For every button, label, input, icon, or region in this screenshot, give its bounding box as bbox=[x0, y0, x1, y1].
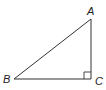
triangle-diagram: A B C bbox=[0, 0, 106, 90]
vertex-label-b: B bbox=[3, 73, 10, 85]
vertex-label-a: A bbox=[86, 5, 94, 17]
right-angle-marker bbox=[84, 72, 91, 79]
triangle-abc bbox=[14, 19, 91, 79]
vertex-label-c: C bbox=[95, 75, 103, 87]
